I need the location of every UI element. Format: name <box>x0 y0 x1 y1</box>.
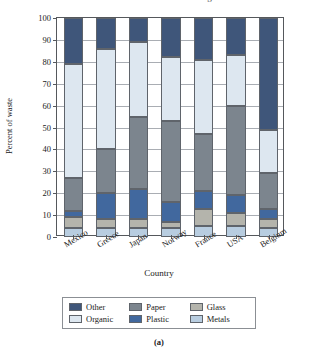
y-tick-label: 100 <box>38 14 51 23</box>
segment-glass[interactable] <box>129 219 149 228</box>
segment-plastic[interactable] <box>226 195 246 213</box>
legend-item-paper[interactable]: Paper <box>129 302 189 312</box>
segment-plastic[interactable] <box>194 191 214 209</box>
segment-paper[interactable] <box>96 149 116 193</box>
segment-paper[interactable] <box>129 117 149 189</box>
legend-label: Paper <box>146 302 165 312</box>
segment-organic[interactable] <box>194 60 214 134</box>
bar-greece[interactable] <box>96 18 116 235</box>
segment-glass[interactable] <box>194 209 214 227</box>
segment-paper[interactable] <box>226 106 246 196</box>
y-tick-label: 90 <box>43 36 52 45</box>
legend-item-glass[interactable]: Glass <box>190 302 250 312</box>
segment-plastic[interactable] <box>96 193 116 219</box>
bar-japan[interactable] <box>129 18 149 235</box>
segment-organic[interactable] <box>129 42 149 116</box>
legend-item-metals[interactable]: Metals <box>190 314 250 324</box>
bar-belgium[interactable] <box>259 18 279 235</box>
waste-composition-figure: Percent of waste in different categories… <box>0 0 318 357</box>
legend-item-plastic[interactable]: Plastic <box>129 314 189 324</box>
y-tick-mark <box>53 237 57 238</box>
y-tick-label: 80 <box>43 58 52 67</box>
chart-title: Percent of waste in different categories <box>0 0 318 2</box>
y-tick-label: 60 <box>43 101 52 110</box>
stacked-bars <box>57 18 283 235</box>
legend-label: Organic <box>86 314 113 324</box>
bar-france[interactable] <box>194 18 214 235</box>
legend-label: Plastic <box>146 314 169 324</box>
legend-row: OrganicPlasticMetals <box>69 313 250 325</box>
segment-organic[interactable] <box>64 64 84 178</box>
bar-norway[interactable] <box>161 18 181 235</box>
legend-row: OtherPaperGlass <box>69 301 250 313</box>
legend-item-other[interactable]: Other <box>69 302 129 312</box>
legend-swatch-plastic <box>129 315 142 323</box>
y-axis-title: Percent of waste <box>4 98 14 154</box>
legend-label: Metals <box>207 314 230 324</box>
segment-plastic[interactable] <box>161 202 181 222</box>
segment-glass[interactable] <box>161 222 181 229</box>
segment-organic[interactable] <box>96 49 116 150</box>
segment-paper[interactable] <box>161 121 181 202</box>
x-axis-title: Country <box>0 268 318 278</box>
segment-organic[interactable] <box>226 55 246 105</box>
segment-glass[interactable] <box>259 219 279 228</box>
segment-paper[interactable] <box>64 178 84 211</box>
legend-swatch-other <box>69 303 82 311</box>
legend-swatch-organic <box>69 315 82 323</box>
segment-other[interactable] <box>259 18 279 130</box>
legend-label: Other <box>86 302 105 312</box>
segment-plastic[interactable] <box>129 189 149 220</box>
segment-other[interactable] <box>129 18 149 42</box>
legend-item-organic[interactable]: Organic <box>69 314 129 324</box>
bar-usa[interactable] <box>226 18 246 235</box>
figure-caption: (a) <box>0 337 318 347</box>
legend-swatch-glass <box>190 303 203 311</box>
y-tick-label: 40 <box>43 145 52 154</box>
segment-other[interactable] <box>96 18 116 49</box>
segment-other[interactable] <box>194 18 214 60</box>
y-tick-label: 30 <box>43 167 52 176</box>
y-tick-label: 50 <box>43 123 52 132</box>
segment-organic[interactable] <box>259 130 279 174</box>
segment-paper[interactable] <box>194 134 214 191</box>
plot-area: 0102030405060708090100 <box>56 17 284 236</box>
y-tick-label: 10 <box>43 211 52 220</box>
segment-plastic[interactable] <box>259 209 279 220</box>
bar-mexico[interactable] <box>64 18 84 235</box>
legend-label: Glass <box>207 302 226 312</box>
segment-organic[interactable] <box>161 57 181 121</box>
segment-paper[interactable] <box>259 173 279 208</box>
segment-glass[interactable] <box>64 217 84 228</box>
y-tick-label: 70 <box>43 79 52 88</box>
segment-glass[interactable] <box>96 219 116 228</box>
segment-other[interactable] <box>226 18 246 55</box>
legend-swatch-paper <box>129 303 142 311</box>
segment-glass[interactable] <box>226 213 246 226</box>
legend-swatch-metals <box>190 315 203 323</box>
segment-other[interactable] <box>161 18 181 57</box>
y-tick-label: 20 <box>43 189 52 198</box>
segment-plastic[interactable] <box>64 211 84 218</box>
segment-other[interactable] <box>64 18 84 64</box>
y-tick-label: 0 <box>47 233 51 242</box>
legend: OtherPaperGlass OrganicPlasticMetals <box>62 297 256 329</box>
